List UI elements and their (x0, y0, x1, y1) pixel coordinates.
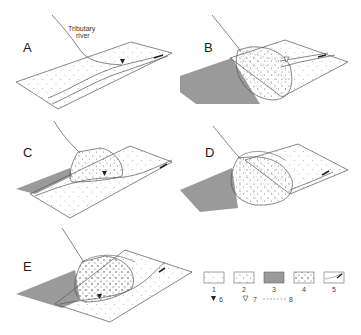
floodplain-surface (16, 42, 172, 109)
legend-key-8: 8 (289, 296, 293, 303)
diagram-canvas: A Tributary river B C (0, 0, 361, 335)
panel-c: C (16, 121, 172, 218)
panel-label-a: A (23, 40, 32, 55)
shaded-unit (180, 168, 238, 212)
tributary-river (212, 15, 240, 50)
panel-label-b: B (204, 40, 213, 55)
panel-b: B (180, 15, 348, 104)
tributary-river (54, 121, 80, 153)
panel-e: E (16, 228, 192, 322)
tributary-river (213, 126, 240, 158)
legend-swatch-1 (204, 272, 224, 283)
panel-d: D (180, 126, 348, 212)
filled-triangle-icon (211, 296, 216, 301)
tributary-river (62, 228, 84, 262)
legend-key-6: 6 (219, 296, 223, 303)
legend-swatch-3 (264, 272, 284, 283)
legend-swatch-4 (294, 272, 314, 283)
legend-key-3: 3 (272, 286, 276, 293)
legend-key-5: 5 (332, 286, 336, 293)
panel-label-e: E (23, 259, 32, 274)
tributary-label-line2: river (76, 32, 90, 39)
panel-label-d: D (205, 145, 214, 160)
panel-label-c: C (23, 145, 32, 160)
legend-key-2: 2 (242, 286, 246, 293)
legend-swatch-2 (234, 272, 254, 283)
legend-key-1: 1 (212, 286, 216, 293)
legend: 1 2 3 4 5 6 7 8 (204, 272, 344, 303)
panel-a: A Tributary river (16, 15, 172, 109)
legend-key-7: 7 (253, 296, 257, 303)
open-triangle-icon (243, 296, 248, 301)
legend-key-4: 4 (302, 286, 306, 293)
